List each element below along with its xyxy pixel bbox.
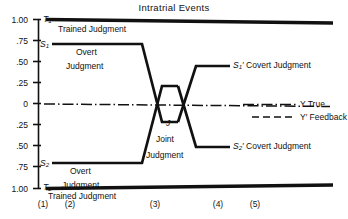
marker-label-j: J bbox=[166, 118, 170, 128]
s1-subscript: 1 bbox=[46, 42, 49, 49]
series-label-s1: S1 bbox=[40, 39, 49, 49]
series-label-s1-prime: S1′ Covert Judgment bbox=[233, 60, 311, 70]
caption-overt-upper: Overt bbox=[76, 47, 97, 57]
y-tick-label-25-top: .25 bbox=[2, 78, 28, 88]
s1-prime-mark: ′ bbox=[242, 60, 244, 70]
axis-endpoint-label-t1: T1 bbox=[43, 14, 52, 24]
caption-judgment-upper: Judgment bbox=[66, 61, 103, 71]
caption-judgment-lower: Judgment bbox=[62, 180, 99, 190]
caption-overt-lower: Overt bbox=[70, 166, 91, 176]
y-tick-label-50-top: .50 bbox=[2, 57, 28, 67]
y-tick-label-1-00-top: 1.00 bbox=[2, 15, 28, 25]
figure-intratrial-events: Intratrial Events bbox=[0, 0, 348, 219]
series-label-s2: S2 bbox=[40, 158, 49, 168]
s2-prime-caption: Covert Judgment bbox=[246, 141, 311, 151]
caption-joint-judgment: Judgment bbox=[146, 150, 183, 160]
y-tick-label-75-top: .75 bbox=[2, 36, 28, 46]
y-tick-label-1-00-bottom: 1.00 bbox=[2, 184, 28, 194]
x-tick-label-3: (3) bbox=[145, 199, 165, 209]
s1-prime-caption: Covert Judgment bbox=[246, 60, 311, 70]
caption-trained-judgment-lower: Trained Judgment bbox=[48, 191, 116, 201]
y-tick-label-25-bottom: .25 bbox=[2, 120, 28, 130]
s2-prime-mark: ′ bbox=[242, 141, 244, 151]
caption-trained-judgment-upper: Trained Judgment bbox=[58, 24, 126, 34]
caption-joint: Joint bbox=[156, 134, 174, 144]
t1-subscript: 1 bbox=[48, 17, 51, 24]
x-tick-label-4: (4) bbox=[208, 199, 228, 209]
series-overt-judgment-s1 bbox=[52, 44, 178, 122]
y-tick-label-75-bottom: .75 bbox=[2, 162, 28, 172]
x-tick-label-5: (5) bbox=[245, 199, 265, 209]
legend-label-y-feedback: Y′ Feedback bbox=[300, 112, 347, 122]
s2-subscript: 2 bbox=[46, 161, 49, 168]
legend-label-y-true: Y True bbox=[300, 99, 325, 109]
chart-plot-area bbox=[0, 0, 348, 219]
series-trained-judgment-upper bbox=[46, 20, 333, 24]
y-tick-label-0: 0 bbox=[2, 99, 28, 109]
series-label-s2-prime: S2′ Covert Judgment bbox=[233, 141, 311, 151]
y-tick-label-50-bottom: .50 bbox=[2, 141, 28, 151]
